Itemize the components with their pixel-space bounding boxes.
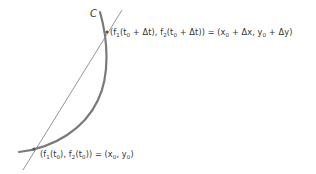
upper-point-marker — [105, 30, 108, 33]
lower-point-label: (f1(t0), f2(t0)) = (x0, y0) — [40, 149, 134, 160]
curve-label: C — [90, 8, 97, 19]
curve-c — [19, 12, 107, 152]
lower-point-marker — [32, 147, 35, 150]
upper-point-label: (f1(t0 + Δt), f2(t0 + Δt)) = (x0 + Δx, y… — [110, 27, 292, 38]
secant-line — [23, 10, 122, 170]
